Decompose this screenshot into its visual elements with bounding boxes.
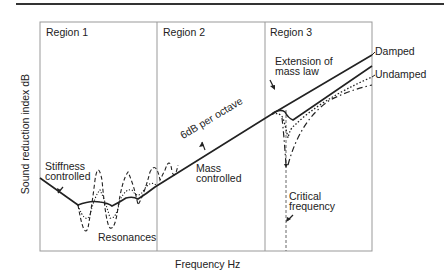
resonances-label: Resonances bbox=[98, 232, 156, 243]
region-3-label: Region 3 bbox=[270, 27, 312, 38]
undamped-label: Undamped bbox=[375, 69, 426, 80]
critical-arrowhead bbox=[284, 164, 288, 168]
mass-label-2: controlled bbox=[196, 173, 242, 184]
region-2-label: Region 2 bbox=[163, 27, 205, 38]
extension-label-2: mass law bbox=[275, 66, 319, 77]
undamped-curve bbox=[272, 77, 372, 138]
stiffness-label-2: controlled bbox=[45, 171, 91, 182]
region-1-label: Region 1 bbox=[46, 27, 88, 38]
y-axis-label: Sound reduction index dB bbox=[19, 69, 31, 199]
damped-label: Damped bbox=[375, 46, 415, 57]
diagram-canvas bbox=[0, 0, 444, 277]
resonance-dotted bbox=[78, 183, 156, 218]
x-axis-label: Frequency Hz bbox=[175, 258, 240, 270]
critical-label-2: frequency bbox=[289, 201, 335, 212]
